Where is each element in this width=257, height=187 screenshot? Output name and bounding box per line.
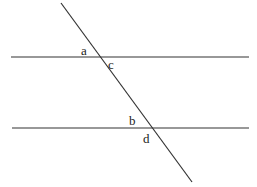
transversal-line: [61, 3, 192, 182]
angle-label-d: d: [143, 131, 150, 146]
angle-label-b: b: [129, 113, 136, 128]
parallel-lines-diagram: a c b d: [0, 0, 257, 187]
angle-label-c: c: [108, 57, 114, 72]
angle-label-a: a: [81, 43, 87, 58]
